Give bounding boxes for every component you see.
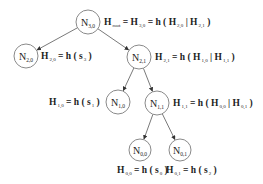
node-n3-0: N3,0 [76, 10, 100, 34]
hash-formula-n2-0: H2,0 = h ( s3 ) [41, 51, 92, 63]
edges-layer [37, 28, 175, 140]
edge-n1-1-to-n0-1 [162, 114, 175, 140]
edge-n3-0-to-n2-0 [37, 28, 78, 50]
node-n0-0: N0,0 [129, 139, 151, 161]
edge-n3-0-to-n2-1 [98, 29, 129, 50]
hash-tree-diagram: N3,0N2,0N2,1N1,0N1,1N0,0N0,1 Hroot = H3,… [0, 0, 263, 184]
hash-formula-n2-1: H2,1 = h ( H1,0 | H1,1 ) [155, 52, 235, 64]
hash-formula-n0-1: H0,1 = h ( s2 ) [166, 165, 217, 177]
node-n1-1: N1,1 [145, 91, 169, 115]
node-n2-0: N2,0 [14, 44, 38, 68]
hash-formula-n3-0: Hroot = H3,0 = h ( H2,0 | H2,1 ) [104, 17, 210, 29]
node-n1-0: N1,0 [106, 90, 130, 114]
node-n0-1: N0,1 [169, 139, 191, 161]
hash-formula-n0-0: H0,0 = h ( s0 ) [117, 165, 168, 177]
edge-n1-1-to-n0-0 [144, 114, 153, 139]
edge-n2-1-to-n1-1 [143, 68, 152, 91]
hash-formula-n1-1: H1,1 = h ( H0,0 | H0,1 ) [173, 98, 253, 110]
edge-n2-1-to-n1-0 [123, 68, 134, 91]
hash-formula-n1-0: H1,0 = h ( s1 ) [49, 97, 100, 109]
nodes-layer: N3,0N2,0N2,1N1,0N1,1N0,0N0,1 [14, 10, 191, 161]
node-n2-1: N2,1 [127, 45, 151, 69]
